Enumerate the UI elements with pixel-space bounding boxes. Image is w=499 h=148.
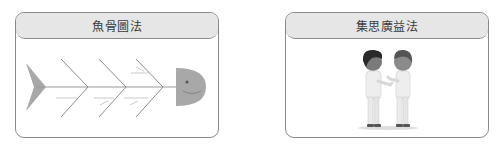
fishbone-method-card: 魚骨圖法 [15,12,219,138]
card-title-header: 魚骨圖法 [16,13,218,39]
person-right [388,50,412,127]
card-illustration-area [16,39,218,137]
card-illustration-area [286,39,488,137]
card-title: 集思廣益法 [356,17,419,34]
person-left [363,50,392,127]
card-title: 魚骨圖法 [92,17,142,34]
card-title-header: 集思廣益法 [286,13,488,39]
two-people-discussing-icon [286,39,489,137]
brainstorming-method-card: 集思廣益法 [285,12,489,138]
fishbone-diagram-icon [16,39,219,137]
